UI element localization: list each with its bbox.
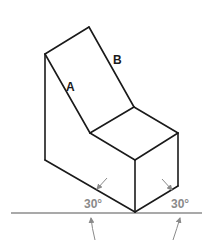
left-lower-arrow-icon [91, 218, 95, 240]
right-upper-arrow-icon [162, 179, 172, 190]
slope-bottom-edge [90, 107, 134, 133]
label-b: B [113, 53, 122, 67]
box-top-front-edge [90, 133, 135, 160]
isometric-diagram: A B 30° 30° [0, 0, 214, 250]
left-angle-annotation: 30° [84, 178, 107, 240]
block-outline [45, 27, 178, 212]
box-top-back-edge [134, 107, 178, 133]
top-edge [45, 27, 89, 54]
edge-b [89, 27, 134, 107]
left-angle-label: 30° [84, 197, 102, 211]
right-angle-label: 30° [171, 197, 189, 211]
label-a: A [66, 80, 75, 94]
left-upper-arrow-icon [97, 178, 107, 189]
box-top-right-edge [135, 133, 178, 160]
right-lower-arrow-icon [173, 218, 180, 240]
